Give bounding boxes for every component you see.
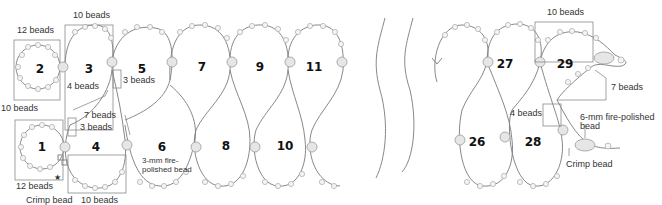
label-fp3-line1: 3-mm fire- [142, 156, 179, 165]
fp-6mm-bead [575, 139, 595, 151]
num-10: 10 [277, 139, 294, 153]
label-r-4beads: 4 beads [510, 108, 543, 118]
label-fp6-line2: bead [580, 121, 600, 131]
num-4: 4 [92, 140, 100, 154]
num-3: 3 [85, 62, 93, 76]
num-26: 26 [469, 135, 486, 149]
label-fp3-line2: polished bead [142, 165, 192, 174]
break-line-2 [402, 18, 414, 172]
loop-27-28 [487, 24, 563, 186]
loop-26-27-left [435, 25, 513, 186]
label-loop2-12beads: 12 beads [17, 25, 55, 35]
num-27: 27 [497, 57, 514, 71]
star-icon: ★ [54, 173, 61, 182]
label-top-10beads: 10 beads [73, 10, 111, 20]
bracket-r-10beads [535, 22, 593, 62]
num-5: 5 [138, 62, 146, 76]
fp-bead-top [594, 52, 614, 64]
label-7beads: 7 beads [84, 110, 117, 120]
beading-diagram: 2 1 3 4 5 6 7 8 9 10 11 26 27 28 29 10 b… [0, 0, 662, 205]
label-loop1-12beads: 12 beads [16, 181, 54, 191]
num-2: 2 [36, 62, 44, 76]
label-bottom-10beads: 10 beads [81, 195, 119, 205]
num-28: 28 [525, 135, 542, 149]
break-line-1 [376, 18, 386, 178]
label-crimp-bead-b: Crimp bead [566, 159, 613, 169]
label-3beads-b: 3 beads [80, 122, 113, 132]
num-6: 6 [158, 140, 166, 154]
bracket-7beads [73, 90, 108, 110]
num-11: 11 [306, 60, 323, 74]
label-r-7beads: 7 beads [611, 82, 644, 92]
label-3beads-a: 3 beads [123, 75, 156, 85]
arrow-head-icon [432, 58, 442, 64]
loop-11 [288, 25, 343, 186]
label-4beads: 4 beads [67, 81, 100, 91]
num-8: 8 [222, 139, 230, 153]
num-7: 7 [198, 60, 206, 74]
num-1: 1 [38, 140, 46, 154]
loop-7-8 [170, 25, 250, 186]
label-crimp-bead-a: Crimp bead [26, 195, 73, 205]
num-29: 29 [557, 57, 574, 71]
num-9: 9 [256, 60, 264, 74]
label-r-10beads: 10 beads [547, 7, 585, 17]
loop-9-10 [230, 25, 306, 186]
label-left-10beads: 10 beads [1, 103, 39, 113]
